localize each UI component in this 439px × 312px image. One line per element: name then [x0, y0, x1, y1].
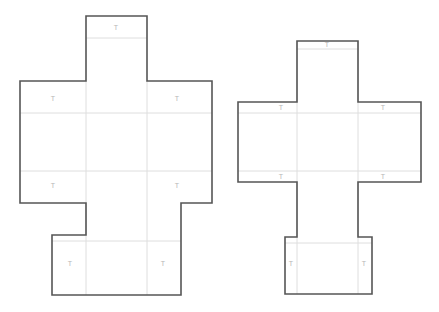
cross-shaped-box-net-left-fill	[20, 16, 212, 295]
tab-label-lower-right: T	[381, 173, 386, 180]
dieline-svg: TTTTTTTTTTTTTT	[0, 0, 439, 312]
tab-label-top: T	[325, 41, 330, 48]
cross-shaped-box-net-left: TTTTTTT	[20, 16, 212, 295]
tab-label-lower-left: T	[279, 173, 284, 180]
tab-label-bottom-right: T	[362, 260, 367, 267]
diagram-group: TTTTTTTTTTTTTT	[20, 16, 421, 295]
tab-label-bottom-left: T	[289, 260, 294, 267]
tab-label-lower-left: T	[51, 182, 56, 189]
tab-label-lower-right: T	[175, 182, 180, 189]
cross-shaped-box-net-right: TTTTTTT	[238, 41, 421, 294]
cross-shaped-box-net-right-fill	[238, 41, 421, 294]
tab-label-top: T	[114, 24, 119, 31]
tab-label-bottom-left: T	[68, 260, 73, 267]
tab-label-upper-left: T	[279, 104, 284, 111]
tab-label-upper-right: T	[175, 95, 180, 102]
diagram-canvas: TTTTTTTTTTTTTT	[0, 0, 439, 312]
tab-label-upper-right: T	[381, 104, 386, 111]
tab-label-upper-left: T	[51, 95, 56, 102]
tab-label-bottom-right: T	[161, 260, 166, 267]
